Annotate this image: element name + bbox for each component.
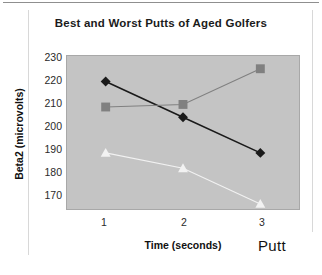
x-axis-tick-labels: 1 2 3 — [0, 216, 322, 232]
best-putt-series-marker — [255, 148, 265, 158]
y-axis-title: Beta2 (microvolts) — [13, 59, 25, 209]
third-series-line — [106, 153, 261, 204]
y-tick-170: 170 — [28, 190, 62, 200]
third-series-marker — [255, 199, 265, 208]
y-tick-220: 220 — [28, 75, 62, 85]
third-series-marker — [101, 148, 111, 157]
best-putt-series — [101, 77, 266, 158]
best-putt-series-marker — [101, 77, 111, 87]
third-series — [101, 148, 266, 208]
x-tick-1: 1 — [89, 216, 119, 228]
legend-title: Putt — [258, 237, 286, 254]
worst-putt-series — [101, 64, 265, 111]
worst-putt-series-marker — [101, 103, 110, 112]
plot-svg — [67, 56, 299, 209]
x-tick-2: 2 — [169, 216, 199, 228]
frame-right-border — [312, 10, 313, 232]
chart-container: Best and Worst Putts of Aged Golfers Bet… — [0, 0, 322, 275]
y-tick-190: 190 — [28, 144, 62, 154]
y-axis-tick-labels: 230 220 210 200 190 180 170 — [26, 0, 62, 275]
worst-putt-series-marker — [179, 100, 188, 109]
y-tick-180: 180 — [28, 167, 62, 177]
y-tick-230: 230 — [28, 52, 62, 62]
worst-putt-series-marker — [256, 64, 265, 73]
x-tick-3: 3 — [247, 216, 277, 228]
best-putt-series-marker — [178, 112, 188, 122]
y-tick-210: 210 — [28, 98, 62, 108]
plot-area — [66, 55, 300, 210]
y-tick-200: 200 — [28, 121, 62, 131]
